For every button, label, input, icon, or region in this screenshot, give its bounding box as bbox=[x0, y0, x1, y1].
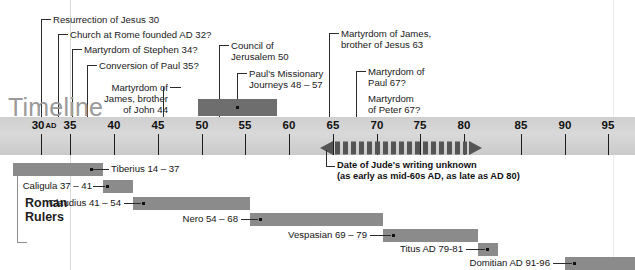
ruler-anchor-dot-vespasian bbox=[392, 234, 395, 237]
leader-h-james-jesus bbox=[329, 33, 339, 34]
tick-mark-45 bbox=[158, 134, 159, 155]
leader-h-council-jerusalem bbox=[219, 45, 229, 46]
jude-date-range-arrow bbox=[320, 140, 482, 156]
ruler-label-nero: Nero 54 – 68 bbox=[175, 213, 238, 224]
tick-label-75: 75 bbox=[414, 119, 427, 131]
ruler-leader-vespasian bbox=[370, 235, 391, 236]
tick-label-80: 80 bbox=[458, 119, 471, 131]
ruler-bar-claudius bbox=[133, 197, 250, 210]
leader-h-paul-martyrdom bbox=[356, 71, 366, 72]
ruler-leader-caligula bbox=[93, 186, 105, 187]
tick-mark-30 bbox=[41, 134, 42, 155]
event-label-resurrection: Resurrection of Jesus 30 bbox=[53, 14, 159, 25]
event-label-conversion-paul: Conversion of Paul 35? bbox=[99, 60, 199, 71]
tick-mark-85 bbox=[521, 134, 522, 155]
ruler-anchor-dot-claudius bbox=[142, 202, 145, 205]
tick-mark-35 bbox=[70, 134, 71, 155]
event-label-council-jerusalem: Council of Jerusalem 50 bbox=[231, 40, 289, 62]
tick-label-35: 35 bbox=[64, 119, 77, 131]
tick-label-30: 30AD bbox=[32, 119, 57, 131]
ruler-leader-claudius bbox=[124, 203, 141, 204]
leader-h-church-rome bbox=[58, 34, 68, 35]
tick-mark-40 bbox=[114, 134, 115, 155]
tick-label-55: 55 bbox=[239, 119, 252, 131]
ruler-bar-vespasian bbox=[383, 229, 478, 242]
ruler-anchor-dot-caligula bbox=[106, 185, 109, 188]
tick-label-30-ad: AD bbox=[45, 121, 56, 130]
leader-h-james-john bbox=[170, 87, 181, 88]
tick-label-60: 60 bbox=[283, 119, 296, 131]
tick-mark-90 bbox=[565, 134, 566, 155]
ruler-label-vespasian: Vespasian 69 – 79 bbox=[279, 229, 367, 240]
ruler-label-tiberius: Tiberius 14 – 37 bbox=[111, 163, 179, 174]
tick-label-70: 70 bbox=[371, 119, 384, 131]
tick-mark-55 bbox=[245, 134, 246, 155]
jude-date-note: Date of Jude's writing unknown (as early… bbox=[337, 160, 520, 182]
timeline-figure: Resurrection of Jesus 30 Church at Rome … bbox=[0, 0, 635, 270]
ruler-label-claudius: Claudius 41 – 54 bbox=[48, 197, 121, 208]
ruler-anchor-dot-nero bbox=[259, 218, 262, 221]
ruler-label-caligula: Caligula 37 – 41 bbox=[22, 180, 92, 191]
tick-label-65: 65 bbox=[327, 119, 340, 131]
ruler-anchor-dot-titus bbox=[486, 248, 489, 251]
axis-band-fill bbox=[0, 117, 635, 155]
event-label-paul-journeys: Paul's Missionary Journeys 48 – 57 bbox=[249, 68, 323, 90]
ruler-label-titus: Titus AD 79-81 bbox=[380, 243, 463, 254]
ruler-label-domitian: Domitian AD 91-96 bbox=[449, 257, 550, 268]
paul-journeys-anchor-dot bbox=[236, 106, 239, 109]
tick-label-90: 90 bbox=[559, 119, 572, 131]
leader-v-jude bbox=[326, 150, 327, 166]
tick-mark-95 bbox=[608, 134, 609, 155]
ruler-leader-nero bbox=[241, 219, 258, 220]
tick-label-40: 40 bbox=[108, 119, 121, 131]
event-label-church-rome: Church at Rome founded AD 32? bbox=[70, 29, 211, 40]
tick-label-50: 50 bbox=[196, 119, 209, 131]
event-label-stephen: Martyrdom of Stephen 34? bbox=[84, 44, 198, 55]
ruler-bar-nero bbox=[250, 213, 383, 226]
event-label-james-brother-of-jesus: Martyrdom of James, brother of Jesus 63 bbox=[341, 28, 431, 50]
leader-h-resurrection bbox=[41, 19, 51, 20]
ruler-leader-titus bbox=[466, 249, 485, 250]
leader-h-stephen bbox=[72, 49, 82, 50]
leader-h-conversion-paul bbox=[87, 65, 97, 66]
event-label-paul-martyrdom: Martyrdom of Paul 67? bbox=[368, 66, 425, 88]
event-label-peter-martyrdom: Martyrdom of Peter 67? bbox=[368, 93, 420, 115]
ruler-leader-domitian bbox=[553, 263, 572, 264]
leader-h-jude bbox=[326, 166, 335, 167]
tick-label-45: 45 bbox=[152, 119, 165, 131]
tick-mark-50 bbox=[202, 134, 203, 155]
tick-mark-60 bbox=[289, 134, 290, 155]
timeline-axis-band bbox=[0, 117, 635, 155]
event-label-james-brother-of-john: Martyrdom of James, brother of John 44 bbox=[95, 82, 168, 116]
tick-label-30-year: 30 bbox=[32, 119, 45, 131]
tick-label-95: 95 bbox=[602, 119, 615, 131]
ruler-anchor-dot-domitian bbox=[573, 262, 576, 265]
ruler-leader-tiberius bbox=[93, 169, 109, 170]
leader-h-paul-journeys bbox=[237, 73, 247, 74]
tick-label-85: 85 bbox=[515, 119, 528, 131]
